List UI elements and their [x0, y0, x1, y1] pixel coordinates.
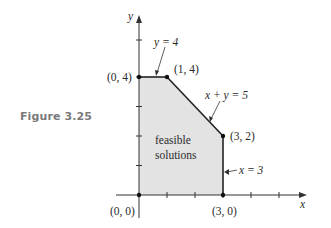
leader-y4: [157, 47, 165, 73]
vertex-1-4: [165, 75, 169, 79]
constraint-label-y4: y = 4: [153, 36, 179, 49]
point-label-3-2: (3, 2): [230, 130, 255, 143]
point-label-0-4: (0, 4): [107, 71, 132, 84]
vertex-3-0: [221, 193, 225, 197]
point-label-0-0: (0, 0): [110, 205, 135, 218]
y-axis-arrow-icon: [136, 15, 142, 23]
point-label-3-0: (3, 0): [212, 205, 237, 218]
feasible-region-plot: y x (0, 4) (1, 4) (3, 2) (0, 0) (3, 0) y…: [0, 0, 331, 228]
y-axis-label: y: [127, 10, 134, 23]
point-label-1-4: (1, 4): [174, 63, 199, 76]
region-label-line1: feasible: [155, 134, 191, 146]
leader-x3-arrowhead-icon: [224, 169, 229, 175]
constraint-label-xy5: x + y = 5: [204, 89, 248, 102]
leader-y4-arrowhead-icon: [155, 70, 159, 76]
vertex-3-2: [221, 134, 225, 138]
vertex-0-4: [137, 75, 141, 79]
leader-xy5: [211, 101, 220, 119]
constraint-label-x3: x = 3: [238, 164, 264, 176]
vertex-0-0: [137, 193, 141, 197]
region-label-line2: solutions: [155, 149, 197, 161]
x-axis-label: x: [299, 198, 306, 210]
